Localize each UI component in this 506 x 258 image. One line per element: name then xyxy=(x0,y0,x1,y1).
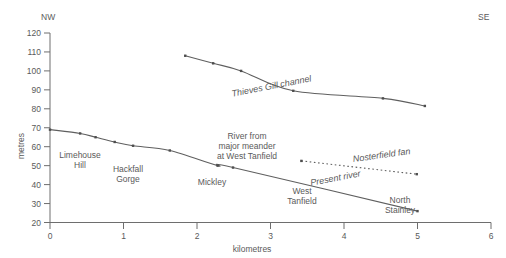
data-point-marker xyxy=(132,145,134,147)
x-tick-3: 3 xyxy=(268,231,273,241)
chart-svg: NW SE 120 110 100 90 80 70 60 xyxy=(0,0,506,258)
place-label-mickley: Mickley xyxy=(198,177,227,187)
orientation-label-nw: NW xyxy=(41,12,55,22)
place-label-limehouse-hill-line2: Hill xyxy=(74,160,86,170)
y-tick-110: 110 xyxy=(27,47,41,57)
x-tick-0: 0 xyxy=(48,231,53,241)
y-tick-80: 80 xyxy=(32,104,42,114)
x-tick-1: 1 xyxy=(121,231,126,241)
data-point-marker xyxy=(94,136,96,138)
series-label-present-river: Present river xyxy=(309,168,362,188)
series-label-thieves-gill-channel: Thieves Gill channel xyxy=(231,73,313,98)
place-label-hackfall-gorge-line2: Gorge xyxy=(116,174,140,184)
x-tick-6: 6 xyxy=(489,231,494,241)
y-axis-tick-labels: 120 110 100 90 80 70 60 50 40 30 20 xyxy=(27,28,41,228)
place-label-west-tanfield-line2: Tanfield xyxy=(287,196,317,206)
place-label-limehouse-hill-line1: Limehouse xyxy=(59,150,101,160)
x-axis-title: kilometres xyxy=(233,244,272,254)
data-point-marker xyxy=(49,128,51,130)
data-point-marker xyxy=(300,160,302,162)
place-label-hackfall-gorge-line1: Hackfall xyxy=(113,164,143,174)
place-label-meander-line2: major meander xyxy=(218,141,275,151)
y-tick-120: 120 xyxy=(27,28,41,38)
place-label-north-stainley-line2: Stainley xyxy=(385,205,416,215)
place-label-meander-line1: River from xyxy=(227,131,266,141)
x-axis-ticks xyxy=(50,223,491,230)
data-point-marker xyxy=(416,173,418,175)
data-point-marker xyxy=(216,164,218,166)
y-tick-90: 90 xyxy=(32,85,42,95)
x-tick-5: 5 xyxy=(415,231,420,241)
y-axis-title: metres xyxy=(16,133,26,159)
data-point-marker xyxy=(382,97,384,99)
data-point-marker xyxy=(169,149,171,151)
place-label-north-stainley-line1: North xyxy=(390,195,411,205)
x-tick-2: 2 xyxy=(195,231,200,241)
y-axis-ticks xyxy=(44,33,50,223)
y-tick-50: 50 xyxy=(32,161,42,171)
orientation-label-se: SE xyxy=(478,12,490,22)
y-tick-60: 60 xyxy=(32,142,42,152)
y-tick-100: 100 xyxy=(27,66,41,76)
data-point-marker xyxy=(292,90,294,92)
data-point-marker xyxy=(232,166,234,168)
y-tick-40: 40 xyxy=(32,180,42,190)
x-axis-tick-labels: 0 1 2 3 4 5 6 xyxy=(48,231,494,241)
y-tick-70: 70 xyxy=(32,123,42,133)
data-point-marker xyxy=(79,132,81,134)
data-point-marker xyxy=(416,210,418,212)
data-point-marker xyxy=(113,141,115,143)
data-point-marker xyxy=(424,105,426,107)
y-tick-30: 30 xyxy=(32,199,42,209)
x-tick-4: 4 xyxy=(342,231,347,241)
data-point-marker xyxy=(240,70,242,72)
data-point-marker xyxy=(184,55,186,57)
y-tick-20: 20 xyxy=(32,218,42,228)
place-label-west-tanfield-line1: West xyxy=(292,186,312,196)
series-label-nosterfield-fan: Nosterfield fan xyxy=(352,146,411,164)
place-annotations: Limehouse Hill Hackfall Gorge Mickley Ri… xyxy=(59,131,416,215)
cross-section-chart: NW SE 120 110 100 90 80 70 60 xyxy=(0,0,506,258)
data-point-marker xyxy=(212,62,214,64)
place-label-meander-line3: at West Tanfield xyxy=(217,151,277,161)
